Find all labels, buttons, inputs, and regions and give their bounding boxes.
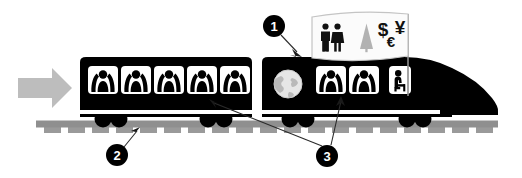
track-sleepers <box>44 127 493 133</box>
car-rear-windows <box>88 66 250 94</box>
callout-marker-1[interactable]: 1 <box>263 15 285 37</box>
callout-marker-3[interactable]: 3 <box>316 145 338 167</box>
locomotive-car-front <box>262 57 498 128</box>
callout-marker-2[interactable]: 2 <box>106 144 128 166</box>
yen-sign: ¥ <box>395 17 406 38</box>
diagram-canvas: High-speed train with numbered callouts <box>0 0 522 178</box>
train-illustration: $ ¥ € 1 2 <box>0 0 522 178</box>
euro-sign: € <box>387 33 396 50</box>
passenger-car-rear <box>80 57 252 128</box>
direction-of-travel-arrow <box>18 68 72 108</box>
globe-icon <box>274 70 302 98</box>
